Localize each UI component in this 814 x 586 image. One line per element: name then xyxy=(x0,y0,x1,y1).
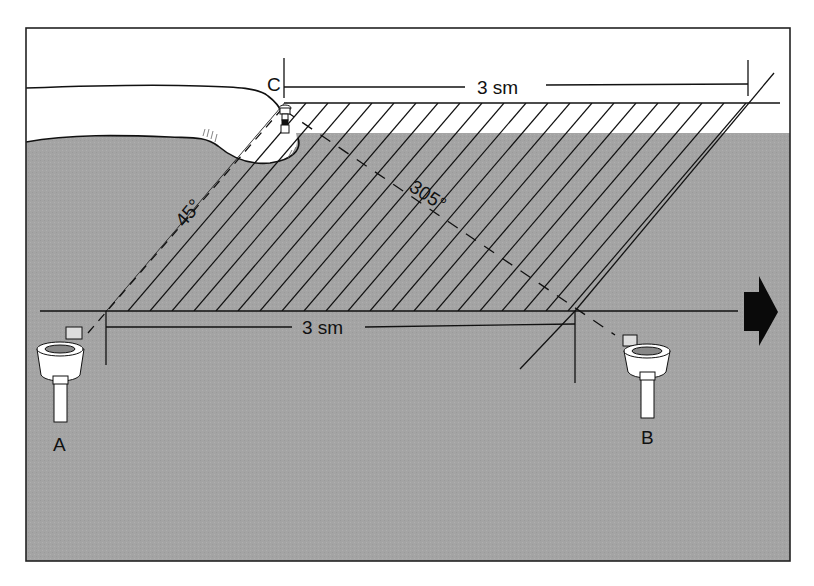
frame: 3 sm 3 sm 45° 305° C xyxy=(26,28,790,561)
bottom-distance-label: 3 sm xyxy=(302,317,343,338)
point-b-label: B xyxy=(641,427,654,448)
running-fix-diagram: 3 sm 3 sm 45° 305° C xyxy=(0,0,814,586)
point-c-label: C xyxy=(267,74,281,95)
top-distance-label: 3 sm xyxy=(477,77,518,98)
point-a-label: A xyxy=(53,434,66,455)
